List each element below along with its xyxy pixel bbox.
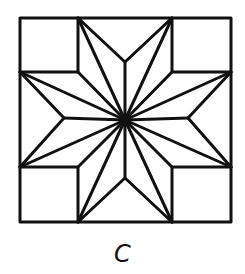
kite-bottom [78, 178, 172, 222]
star-quilt-diagram [0, 0, 245, 274]
corner-square-br [172, 167, 231, 222]
kite-top [78, 18, 172, 62]
corner-square-tl [20, 18, 78, 72]
center-point [121, 116, 129, 124]
kite-right [188, 72, 231, 167]
figure-label: C [0, 240, 245, 268]
corner-square-bl [20, 167, 78, 222]
kite-left [20, 72, 64, 167]
corner-square-tr [172, 18, 231, 72]
